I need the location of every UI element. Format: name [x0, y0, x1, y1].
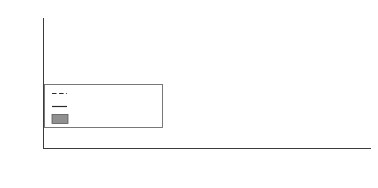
chart-legend [45, 85, 163, 128]
birth-death-rate-chart [0, 0, 378, 188]
chart-canvas [0, 0, 378, 188]
legend-area-swatch-icon [52, 115, 68, 124]
legend-item-population-growth [52, 115, 68, 124]
